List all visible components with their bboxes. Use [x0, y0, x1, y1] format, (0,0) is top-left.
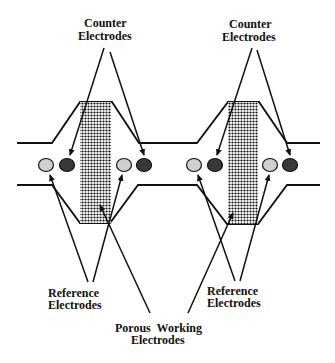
- counter-left-label-line2: Electrodes: [78, 29, 132, 43]
- reference-electrode-2: [117, 159, 132, 172]
- porous-working-electrode-right: [228, 102, 258, 224]
- reference-electrode-1: [39, 159, 54, 172]
- counter-electrode-3: [208, 159, 223, 172]
- counter-right-label-line2: Electrodes: [222, 30, 276, 44]
- porous-working-label-line2: Electrodes: [131, 333, 185, 347]
- reference-electrode-4: [263, 159, 278, 172]
- counter-right-label-line1: Counter: [229, 17, 272, 31]
- counter-right-arrow-2: [257, 50, 290, 155]
- counter-electrode-4: [283, 159, 298, 172]
- reference-left-label-line2: Electrodes: [48, 298, 102, 312]
- porous-working-electrode-left: [80, 102, 111, 223]
- electrode-diagram: Counter Electrodes Counter Electrodes Re…: [0, 0, 335, 363]
- counter-electrode-2: [137, 159, 152, 172]
- electrodes: [39, 159, 298, 172]
- counter-left-label-line1: Counter: [84, 16, 127, 30]
- counter-electrode-1: [60, 159, 75, 172]
- counter-left-arrow-2: [110, 52, 144, 155]
- reference-right-label-line2: Electrodes: [207, 296, 261, 310]
- reference-electrode-3: [187, 159, 202, 172]
- working-left-arrow: [100, 205, 150, 313]
